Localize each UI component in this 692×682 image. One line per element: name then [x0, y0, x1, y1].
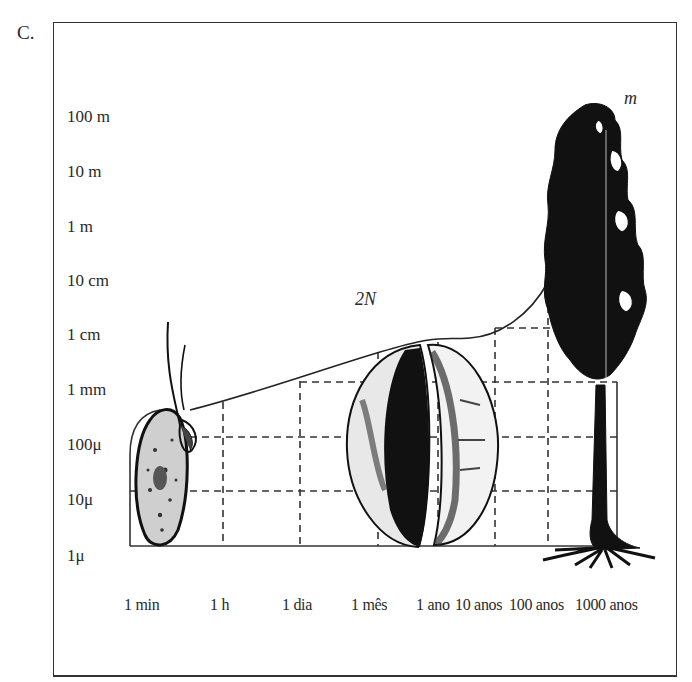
- x-tick-label: 1 min: [124, 597, 159, 613]
- x-tick-label: 1 dia: [282, 597, 312, 613]
- seed-illustration: [347, 345, 498, 547]
- tree-label-m: m: [624, 88, 637, 109]
- x-tick-label: 1 ano: [416, 597, 450, 613]
- curve-label-2n: 2N: [355, 289, 376, 310]
- tree-illustration: [543, 103, 655, 568]
- x-tick-label: 10 anos: [455, 597, 502, 613]
- x-tick-label: 1 h: [210, 597, 229, 613]
- x-tick-label: 1000 anos: [575, 597, 638, 613]
- x-tick-label: 1 mês: [351, 597, 387, 613]
- pollen-grain-illustration: [136, 322, 196, 545]
- x-tick-label: 100 anos: [509, 597, 564, 613]
- growth-diagram: [0, 0, 692, 682]
